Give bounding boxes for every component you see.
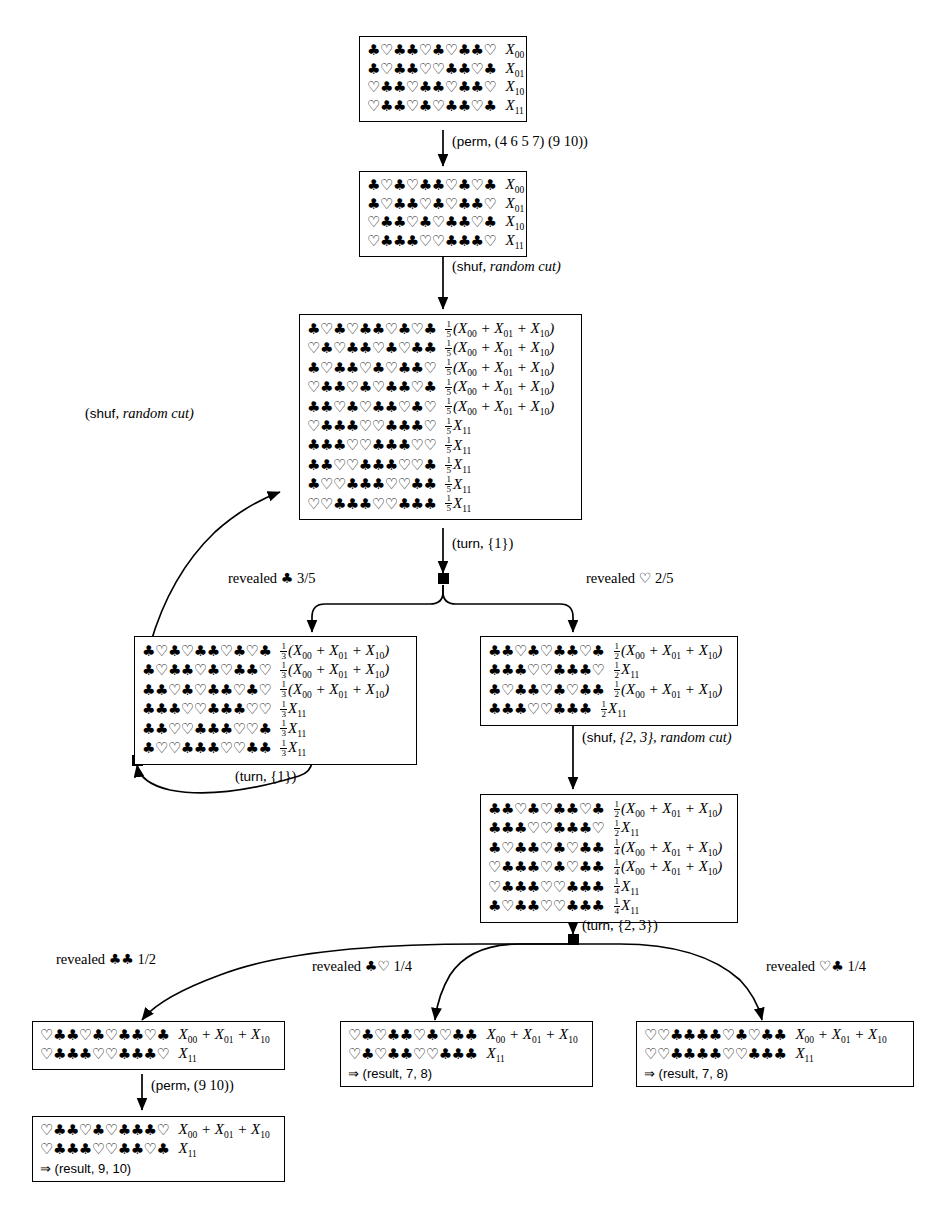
table-row: ♡♡♣♣♣♣♡♣♡♣♣ X00 + X01 + X10 [644, 1027, 906, 1046]
edge-label-turn-right: (turn, {2, 3}) [582, 917, 658, 934]
row-label: X11 [169, 1046, 196, 1065]
edge-label-turn-1: (turn, {1}) [452, 535, 513, 552]
card-row: ♡♣♣♡♣♡♣♣♣♡ [40, 1123, 169, 1139]
fraction-one-quarter: 14 [614, 858, 621, 877]
table-row: ♣♣♡♣♡♣♣♡♣♡ 13(X00 + X01 + X10) [142, 681, 409, 700]
card-row: ♣♣♡♣♡♣♣♡♣♡ [142, 683, 271, 699]
row-label: 13(X00 + X01 + X10) [271, 661, 389, 680]
table-row: ♣♣♡♡♣♣♣♡♡♣ 13X11 [142, 720, 409, 739]
table-row: ♣♣♣♡♡♣♣♣ 12X11 [488, 700, 730, 719]
card-row: ♡♣♣♣♡♡♣♣♣♡ [307, 419, 436, 435]
fraction-one-third: 13 [280, 642, 287, 661]
table-row: ♡♣♡♣♣♡♡♣♣♣ X11 [348, 1046, 585, 1065]
card-row: ♡♣♡♣♣♡♣♡♣♣ [348, 1028, 477, 1044]
table-row: ♡♣♣♣♡♡♣♣♣ 14X11 [488, 878, 730, 897]
card-row: ♣♡♣♣♡♡♣♣♡♣ [367, 62, 496, 78]
fraction-one-half: 12 [614, 661, 621, 680]
table-row: ♣♡♣♣♡♡♣♣♡♣ X01 [367, 61, 519, 80]
table-row: ♡♣♣♡♣♡♣♣♡♣ X10 [367, 214, 519, 233]
row-label: 14(X00 + X01 + X10) [605, 839, 723, 858]
row-label: 12(X00 + X01 + X10) [605, 681, 723, 700]
fraction-one-third: 13 [280, 739, 287, 758]
club-icon: ♣♣ [109, 951, 134, 967]
row-label: X11 [477, 1046, 504, 1065]
row-label: 12X11 [605, 661, 640, 680]
row-label: 13(X00 + X01 + X10) [271, 681, 389, 700]
row-label: X00 + X01 + X10 [786, 1027, 886, 1046]
revealed-club-branch-box: ♣♡♣♡♣♣♡♣♡♣ 13(X00 + X01 + X10) ♣♡♣♣♡♣♡♣♣… [134, 636, 417, 765]
row-label: X00 [496, 42, 524, 61]
row-label: 13X11 [271, 739, 306, 758]
card-row: ♡♣♣♣♡♡♣♣♣ [488, 880, 605, 896]
card-row: ♣♡♣♡♣♣♡♣♡♣ [367, 178, 496, 194]
table-row: ♣♡♣♣♡♡♣♣♣ 14X11 [488, 897, 730, 916]
table-row: ♣♡♣♣♡♣♡♣♣ 12(X00 + X01 + X10) [488, 681, 730, 700]
row-label: X11 [169, 1141, 196, 1160]
table-row: ♣♣♡♣♡♣♣♡♣♡ 15(X00 + X01 + X10) [307, 398, 574, 417]
table-row: ♡♣♣♣♡♡♣♣♣♡ X11 [40, 1046, 277, 1065]
row-label: 15X11 [436, 456, 471, 475]
card-row: ♡♡♣♣♣♣♡♡♣♣♣ [644, 1047, 786, 1063]
card-row: ♣♣♡♣♡♣♣♡♣♡ [307, 400, 436, 416]
fraction-one-half: 12 [614, 800, 621, 819]
fraction-one-quarter: 14 [614, 838, 621, 857]
table-row: ♡♣♣♣♡♣♡♣♣ 14(X00 + X01 + X10) [488, 858, 730, 877]
revealed-label-heartclub-1-4: revealed ♡♣ 1/4 [766, 958, 866, 975]
card-row: ♣♣♡♣♡♣♣♡♣ [488, 644, 605, 660]
row-label: 14(X00 + X01 + X10) [605, 858, 723, 877]
table-row: ♣♣♣♡♡♣♣♣♡ 12X11 [488, 661, 730, 680]
card-row: ♣♣♣♡♡♣♣♣♡♡ [142, 702, 271, 718]
row-label: X00 + X01 + X10 [477, 1027, 577, 1046]
card-row: ♡♣♣♣♡♡♣♣♡♣ [40, 1142, 169, 1158]
card-row: ♣♡♣♡♣♣♡♣♡♣ [142, 644, 271, 660]
heart-icon: ♡ [639, 570, 652, 586]
card-row: ♡♣♣♡♣♡♣♣♡♣ [40, 1028, 169, 1044]
card-row: ♣♣♣♡♡♣♣♣♡ [488, 663, 605, 679]
card-row: ♡♣♣♡♣♣♡♣♣♡ [367, 80, 496, 96]
row-label: 13X11 [271, 720, 306, 739]
card-row: ♣♡♣♣♡♣♡♣♣♡ [142, 663, 271, 679]
table-row: ♣♡♣♡♣♣♡♣♡♣ 15(X00 + X01 + X10) [307, 320, 574, 339]
table-row: ♡♣♣♡♣♡♣♣♣♡ X00 + X01 + X10 [40, 1122, 277, 1141]
fraction-one-half: 12 [614, 680, 621, 699]
fraction-one-half: 12 [614, 819, 621, 838]
table-row: ♣♡♣♣♡♣♡♣♣♡ X01 [367, 196, 519, 215]
turn-junction-node-1 [438, 573, 449, 584]
row-label: X01 [496, 196, 524, 215]
card-row: ♡♡♣♣♣♡♡♣♣♣ [307, 497, 436, 513]
table-row: ♡♡♣♣♣♡♡♣♣♣ 15X11 [307, 495, 574, 514]
revealed-label-clubheart-1-4: revealed ♣♡ 1/4 [312, 958, 412, 975]
table-row: ♣♡♡♣♣♣♡♡♣♣ 13X11 [142, 739, 409, 758]
table-row: ♡♣♡♣♣♡♣♡♣♣ X00 + X01 + X10 [348, 1027, 585, 1046]
heart-club-outcome-box: ♡♡♣♣♣♣♡♣♡♣♣ X00 + X01 + X10 ♡♡♣♣♣♣♡♡♣♣♣ … [636, 1021, 914, 1087]
fraction-one-fifth: 15 [445, 358, 452, 377]
table-row: ♣♡♡♣♣♣♡♡♣♣ 15X11 [307, 476, 574, 495]
card-row: ♣♡♣♣♡♡♣♣♣ [488, 899, 605, 915]
table-row: ♡♣♣♡♣♡♣♣♡♣ 15(X00 + X01 + X10) [307, 378, 574, 397]
table-row: ♣♡♣♣♡♣♡♣♣ 14(X00 + X01 + X10) [488, 839, 730, 858]
card-row: ♣♣♣♡♡♣♣♣♡♡ [307, 438, 436, 454]
row-label: 15(X00 + X01 + X10) [436, 398, 554, 417]
edge-label-shuf-1: (shuf, random cut) [452, 258, 561, 275]
row-label: 15(X00 + X01 + X10) [436, 378, 554, 397]
fraction-one-half: 12 [601, 700, 608, 719]
fraction-one-third: 13 [280, 661, 287, 680]
row-label: X10 [496, 79, 524, 98]
row-label: 12(X00 + X01 + X10) [605, 642, 723, 661]
revealed-heart-branch-box: ♣♣♡♣♡♣♣♡♣ 12(X00 + X01 + X10) ♣♣♣♡♡♣♣♣♡ … [480, 636, 738, 726]
table-row: ♡♣♡♣♣♡♣♡♣♣ 15(X00 + X01 + X10) [307, 339, 574, 358]
fraction-one-fifth: 15 [445, 456, 452, 475]
table-row: ♡♣♣♡♣♡♣♣♡♣ X11 [367, 98, 519, 117]
card-row: ♡♣♡♣♣♡♡♣♣♣ [348, 1047, 477, 1063]
fraction-one-third: 13 [280, 719, 287, 738]
card-row: ♡♡♣♣♣♣♡♣♡♣♣ [644, 1028, 786, 1044]
row-label: X11 [786, 1046, 813, 1065]
card-row: ♡♣♣♣♡♣♡♣♣ [488, 860, 605, 876]
card-row: ♣♡♡♣♣♣♡♡♣♣ [307, 477, 436, 493]
card-row: ♣♣♡♡♣♣♣♡♡♣ [142, 722, 271, 738]
row-label: X11 [496, 98, 523, 117]
table-row: ♣♡♣♡♣♣♡♣♡♣ X00 [367, 177, 519, 196]
card-row: ♣♡♣♣♡♣♡♣♣♡ [367, 197, 496, 213]
row-label: X11 [496, 233, 523, 252]
card-row: ♣♡♣♣♡♣♡♣♣♡ [307, 361, 436, 377]
